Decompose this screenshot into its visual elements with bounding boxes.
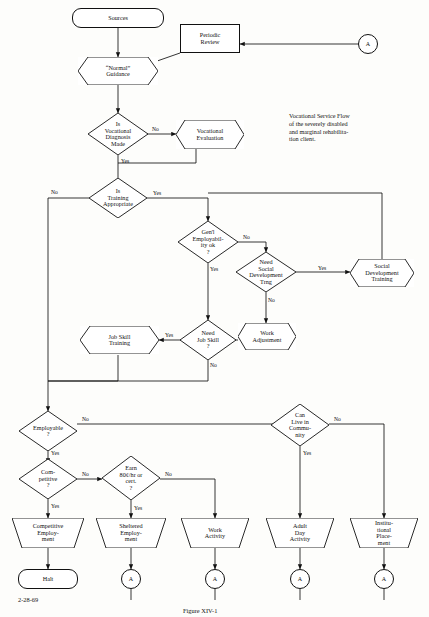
edge-label-voc-diagnosis-no: No — [152, 126, 159, 132]
node-sources-label: Sources — [107, 15, 129, 22]
edge-label-live-comm-no: No — [334, 416, 341, 422]
node-vocational-evaluation[interactable]: Vocational Evaluation — [176, 120, 244, 149]
node-general-employability[interactable]: Gen'l Employabil- ity ok ? — [178, 221, 238, 263]
node-earn-threshold[interactable]: Earn 80¢/hr or cert. ? — [102, 456, 160, 500]
connector-a-3-label: A — [297, 576, 303, 582]
connector-a-1-label: A — [128, 576, 134, 582]
edge-label-earn-yes: Yes — [134, 505, 142, 511]
flowchart-page: Sources Periodic Review A “Normal” Guida… — [0, 0, 429, 617]
node-social-development-training-label: Social Development Training — [364, 263, 399, 283]
node-job-skill-training[interactable]: Job Skill Training — [80, 326, 159, 354]
node-work-activity[interactable]: Work Activity — [181, 518, 249, 548]
node-work-adjustment[interactable]: Work Adjustment — [238, 323, 296, 350]
date-stamp: 2-28-69 — [18, 596, 38, 603]
node-competitive-employment-label: Competitive Employ- ment — [32, 523, 65, 543]
node-work-activity-label: Work Activity — [204, 527, 226, 540]
node-training-appropriate-label: Is Training Appropriate — [102, 188, 134, 208]
edge-label-voc-diagnosis-yes: Yes — [121, 158, 129, 164]
node-work-adjustment-label: Work Adjustment — [252, 330, 283, 343]
connector-a-4-label: A — [381, 576, 387, 582]
node-earn-threshold-label: Earn 80¢/hr or cert. ? — [119, 465, 144, 491]
connector-a-4[interactable]: A — [374, 569, 394, 589]
edge-label-job-skill-no: No — [210, 362, 217, 368]
edge-label-need-social-yes: Yes — [318, 265, 326, 271]
node-competitive-employment[interactable]: Competitive Employ- ment — [12, 518, 84, 548]
node-normal-guidance[interactable]: “Normal” Guidance — [78, 57, 158, 85]
node-sources[interactable]: Sources — [72, 8, 164, 28]
node-halt-label: Halt — [42, 576, 55, 583]
node-halt[interactable]: Halt — [18, 569, 78, 589]
edge-label-live-comm-yes: Yes — [303, 450, 311, 456]
edge-label-need-social-no: No — [268, 297, 275, 303]
node-can-live-in-community[interactable]: Can Live in Commu- nity — [271, 404, 329, 446]
connector-a-3[interactable]: A — [290, 569, 310, 589]
connector-a-1[interactable]: A — [121, 569, 141, 589]
node-vocational-diagnosis-label: Is Vocational Diagnosis Made — [104, 121, 132, 147]
edge-label-employable-no: No — [82, 416, 89, 422]
node-need-social-development[interactable]: Need Social Development Trng — [236, 252, 296, 292]
edge-label-training-yes: Yes — [153, 190, 161, 196]
node-vocational-evaluation-label: Vocational Evaluation — [196, 128, 225, 141]
node-periodic-review[interactable]: Periodic Review — [180, 24, 240, 53]
node-sheltered-employment[interactable]: Sheltered Employ- ment — [96, 518, 166, 548]
node-competitive[interactable]: Com- petitive ? — [19, 459, 77, 499]
node-institutional-placement-label: Institu- tional Place- ment — [374, 520, 394, 546]
node-periodic-review-label: Periodic Review — [199, 32, 222, 45]
figure-caption: Figure XIV-1 — [183, 607, 217, 614]
edge-label-competitive-no: No — [82, 471, 89, 477]
node-need-social-development-label: Need Social Development Trng — [248, 259, 283, 285]
edge-label-earn-no: No — [165, 471, 172, 477]
connector-a-2-label: A — [212, 576, 218, 582]
node-normal-guidance-label: “Normal” Guidance — [105, 65, 131, 78]
node-need-job-skill[interactable]: Need Job Skill ? — [180, 320, 236, 360]
connector-a-top-label: A — [365, 41, 371, 47]
node-institutional-placement[interactable]: Institu- tional Place- ment — [350, 518, 418, 548]
edge-label-gen-employ-no: No — [243, 234, 250, 240]
node-employable-label: Employable ? — [32, 425, 64, 438]
edge-label-training-no: No — [51, 189, 58, 195]
node-adult-day-activity[interactable]: Adult Day Activity — [266, 518, 334, 548]
node-employable[interactable]: Employable ? — [19, 411, 77, 451]
diagram-note: Vocational Service Flow of the severely … — [289, 112, 415, 143]
connector-a-top[interactable]: A — [358, 34, 378, 54]
node-competitive-label: Com- petitive ? — [38, 469, 59, 489]
node-adult-day-activity-label: Adult Day Activity — [289, 523, 311, 543]
edge-label-job-skill-yes: Yes — [165, 332, 173, 338]
node-can-live-in-community-label: Can Live in Commu- nity — [288, 412, 312, 438]
edge-label-competitive-yes: Yes — [51, 503, 59, 509]
node-social-development-training[interactable]: Social Development Training — [350, 259, 414, 287]
node-sheltered-employment-label: Sheltered Employ- ment — [118, 523, 143, 543]
node-vocational-diagnosis[interactable]: Is Vocational Diagnosis Made — [88, 113, 148, 155]
node-training-appropriate[interactable]: Is Training Appropriate — [89, 178, 147, 218]
connector-a-2[interactable]: A — [205, 569, 225, 589]
node-need-job-skill-label: Need Job Skill ? — [196, 330, 220, 350]
edge-label-gen-employ-yes: Yes — [210, 266, 218, 272]
node-job-skill-training-label: Job Skill Training — [108, 334, 132, 347]
node-general-employability-label: Gen'l Employabil- ity ok ? — [192, 229, 225, 255]
